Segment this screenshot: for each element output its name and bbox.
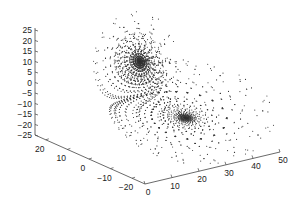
y-tick-label: 0 — [81, 163, 86, 173]
x-tick-label: 0 — [146, 187, 151, 197]
y-axis-line — [35, 135, 145, 184]
z-tick-label: 15 — [23, 46, 33, 56]
attractor-points — [93, 11, 274, 164]
z-tick-label: 20 — [23, 36, 33, 46]
x-tick-label: 40 — [251, 161, 261, 171]
x-tick-label: 50 — [278, 155, 288, 165]
z-tick-label: 0 — [27, 78, 32, 88]
y-tick-label: 20 — [35, 144, 45, 154]
y-tick-label: −10 — [97, 173, 112, 183]
z-tick-label: 5 — [27, 67, 32, 77]
x-tick-label: 20 — [197, 174, 207, 184]
x-tick-label: 30 — [224, 168, 234, 178]
x-axis-ticks: 01020304050 — [144, 149, 288, 197]
z-tick-label: −10 — [18, 99, 33, 109]
z-tick-label: 10 — [23, 57, 33, 67]
z-tick-label: −5 — [22, 88, 32, 98]
x-tick-label: 10 — [170, 181, 180, 191]
z-tick-label: −15 — [18, 109, 33, 119]
z-tick-label: −20 — [18, 120, 33, 130]
lorenz-scatter-plot: 2520151050−5−10−15−20−25 20100−10−20 010… — [0, 0, 302, 203]
y-tick-label: −20 — [119, 182, 134, 192]
y-axis-ticks: 20100−10−20 — [35, 139, 135, 192]
y-tick-label: 10 — [57, 153, 67, 163]
z-tick-label: −25 — [18, 130, 33, 140]
z-tick-label: 25 — [23, 25, 33, 35]
